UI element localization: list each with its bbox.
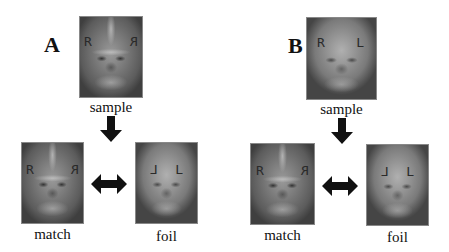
panel-a-sample-image: R R [79,16,143,98]
panel-a-label: A [44,34,60,56]
panel-a-foil-right-letter: L [175,163,183,176]
panel-b-match-right-letter: R [301,164,309,177]
panel-b-sample-image: R L [306,17,377,100]
panel-b-foil-image: L L [366,144,429,226]
panel-b-match-image: R R [250,143,315,225]
panel-b-match-left-letter: R [256,164,264,177]
panel-a-double-arrow-icon [91,174,127,194]
panel-b-sample-left-letter: R [317,36,325,49]
panel-a-match-caption: match [21,227,84,242]
panel-b-sample-right-letter: L [356,36,364,49]
mirrored-letter: R [71,163,79,176]
panel-b-sample-caption: sample [306,102,377,117]
mirrored-letter: L [381,165,389,178]
panel-a-foil-left-letter: L [150,163,158,176]
panel-a-down-arrow-icon [100,116,122,142]
panel-a-match-image: R R [21,142,84,224]
panel-a-match-right-letter: R [71,163,79,176]
panel-b-double-arrow-icon [322,176,358,196]
mirrored-letter: R [301,164,309,177]
panel-a-foil-image: L L [135,142,198,224]
panel-b-down-arrow-icon [331,118,353,144]
panel-b-foil-caption: foil [366,230,429,245]
mirrored-letter: R [130,35,138,48]
panel-a-sample-left-letter: R [84,35,92,48]
panel-a-match-left-letter: R [26,163,34,176]
panel-a-foil-caption: foil [135,229,198,244]
panel-b-label: B [288,35,303,57]
mirrored-letter: L [150,163,158,176]
panel-a-sample-caption: sample [79,100,143,115]
panel-b-foil-right-letter: L [406,165,414,178]
panel-a-sample-right-letter: R [130,35,138,48]
panel-b-match-caption: match [250,228,315,243]
panel-b-foil-left-letter: L [381,165,389,178]
